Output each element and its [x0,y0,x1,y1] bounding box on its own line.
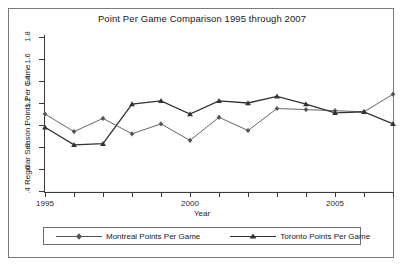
diamond-marker-icon [130,131,135,136]
x-axis-tick [306,193,307,197]
legend-label-toronto: Toronto Points Per Game [280,232,370,241]
x-axis-tick-label: 2005 [315,199,355,208]
x-axis-tick [132,193,133,197]
x-axis-label: Year [9,209,395,218]
chart-title: Point Per Game Comparison 1995 through 2… [9,13,395,24]
x-axis-tick-label: 1995 [25,199,65,208]
x-axis-tick [277,193,278,197]
diamond-marker-icon [101,116,106,121]
legend-label-montreal: Montreal Points Per Game [106,232,200,241]
y-axis-tick [39,37,44,38]
x-axis-tick [335,193,336,197]
chart-figure: Point Per Game Comparison 1995 through 2… [8,8,394,258]
x-axis-tick [364,193,365,197]
x-axis-tick [219,193,220,197]
plot-area [45,37,393,191]
y-axis-tick [39,103,44,104]
y-axis-tick [39,125,44,126]
chart-legend: Montreal Points Per Game Toronto Points … [43,227,361,245]
triangle-marker-icon [274,94,280,99]
y-axis-tick [39,81,44,82]
x-axis-tick [74,193,75,197]
y-axis-tick [39,191,44,192]
diamond-marker-icon [246,128,251,133]
x-axis-tick [393,193,394,197]
legend-item-toronto: Toronto Points Per Game [226,228,370,244]
diamond-marker-icon [159,121,164,126]
diamond-marker-icon [72,129,77,134]
x-axis-tick [161,193,162,197]
x-axis-tick [103,193,104,197]
x-axis-tick [45,193,46,197]
diamond-marker-icon [391,92,396,97]
y-axis-tick [39,169,44,170]
x-axis-tick-label: 2000 [170,199,210,208]
diamond-marker-icon [304,107,309,112]
triangle-marker-icon [230,236,276,237]
x-axis-tick [248,193,249,197]
data-series-layer [45,37,393,191]
diamond-marker-icon [56,236,102,237]
legend-item-montreal: Montreal Points Per Game [52,228,200,244]
gridline [45,191,393,192]
y-axis-tick [39,147,44,148]
x-axis-tick [190,193,191,197]
diamond-marker-icon [275,106,280,111]
y-axis-tick [39,59,44,60]
